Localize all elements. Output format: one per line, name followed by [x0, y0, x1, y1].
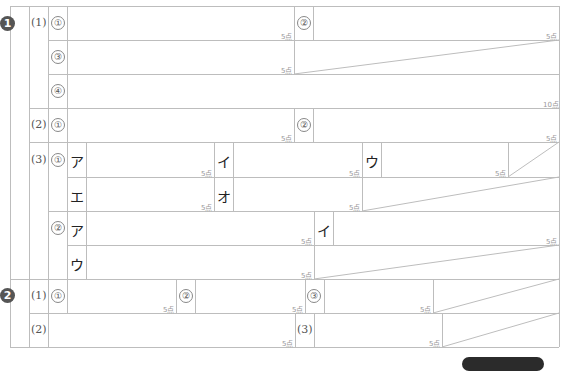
item-mark: ②	[179, 289, 193, 303]
answer-field-1-1-3[interactable]	[68, 41, 294, 74]
question-label: (3)	[297, 323, 313, 336]
kana-label: オ	[217, 186, 231, 206]
points-label: 5点	[201, 202, 212, 212]
answer-field-1-2-1[interactable]	[68, 109, 294, 142]
answer-field-2-2[interactable]	[49, 314, 295, 347]
points-label: 5点	[420, 304, 431, 314]
answer-field-1-3-2-u[interactable]	[87, 246, 314, 279]
kana-label: ア	[70, 220, 84, 240]
points-label: 5点	[546, 236, 557, 246]
answer-field-1-3-1-a[interactable]	[87, 143, 214, 177]
points-label: 5点	[546, 31, 557, 41]
points-label: 5点	[495, 168, 506, 178]
points-label: 10点	[543, 99, 559, 109]
answer-field-1-3-1-u[interactable]	[382, 143, 508, 177]
question-label: (1)	[31, 289, 47, 302]
points-label: 5点	[429, 338, 440, 348]
points-label: 5点	[301, 236, 312, 246]
points-label: 5点	[201, 168, 212, 178]
points-label: 5点	[301, 270, 312, 280]
answer-field-1-3-1-e[interactable]	[87, 178, 214, 211]
answer-field-1-1-2[interactable]	[314, 7, 559, 40]
answer-field-1-3-2-i[interactable]	[334, 212, 559, 245]
points-label: 5点	[282, 338, 293, 348]
points-label: 5点	[292, 304, 303, 314]
question-label: (2)	[31, 323, 47, 336]
item-mark: ②	[297, 118, 311, 132]
kana-label: イ	[317, 220, 331, 240]
item-mark: ①	[51, 289, 65, 303]
answer-field-2-1-2[interactable]	[196, 280, 305, 313]
section-badge-2: 2	[0, 288, 15, 303]
item-mark: ①	[51, 118, 65, 132]
question-label: (2)	[31, 118, 47, 131]
answer-field-2-3[interactable]	[315, 314, 442, 347]
answer-field-1-3-1-o[interactable]	[234, 178, 362, 211]
item-mark: ②	[51, 221, 65, 235]
kana-label: ウ	[70, 254, 84, 274]
points-label: 5点	[349, 202, 360, 212]
item-mark: ④	[51, 84, 65, 98]
score-tab	[462, 357, 544, 371]
kana-label: ウ	[365, 151, 379, 171]
answer-field-1-1-1[interactable]	[68, 7, 294, 40]
item-mark: ③	[307, 289, 321, 303]
answer-field-1-1-4[interactable]	[68, 75, 559, 108]
points-label: 5点	[281, 65, 292, 75]
answer-field-1-2-2[interactable]	[314, 109, 559, 142]
question-label: (3)	[31, 153, 47, 166]
points-label: 5点	[281, 133, 292, 143]
kana-label: ア	[70, 151, 84, 171]
item-mark: ①	[51, 153, 65, 167]
item-mark: ③	[51, 50, 65, 64]
section-badge-1: 1	[0, 16, 15, 31]
points-label: 5点	[163, 304, 174, 314]
kana-label: イ	[217, 151, 231, 171]
question-label: (1)	[31, 16, 47, 29]
points-label: 5点	[349, 168, 360, 178]
answer-field-2-1-1[interactable]	[68, 280, 176, 313]
kana-label: エ	[70, 186, 84, 206]
answer-field-1-3-1-i[interactable]	[234, 143, 362, 177]
points-label: 5点	[546, 133, 557, 143]
item-mark: ①	[51, 16, 65, 30]
points-label: 5点	[281, 31, 292, 41]
answer-field-2-1-3[interactable]	[325, 280, 433, 313]
item-mark: ②	[297, 16, 311, 30]
answer-field-1-3-2-a[interactable]	[87, 212, 314, 245]
